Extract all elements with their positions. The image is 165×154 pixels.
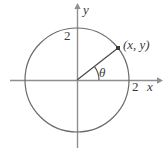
y-axis-tick-label-2: 2: [64, 29, 71, 42]
radius-segment: [77, 48, 118, 80]
x-axis-tick-label-2: 2: [132, 80, 139, 93]
x-axis-arrowhead: [157, 77, 163, 83]
y-axis-arrowhead: [74, 3, 80, 9]
angle-theta-label: θ: [99, 66, 105, 79]
circle-diagram-figure: y 2 (x, y) θ 2 x: [0, 0, 165, 154]
x-axis-label: x: [147, 80, 153, 93]
terminal-point-marker: [116, 46, 120, 50]
terminal-point-label: (x, y): [123, 38, 150, 51]
y-axis-label: y: [83, 3, 89, 16]
diagram-canvas: [0, 0, 165, 154]
